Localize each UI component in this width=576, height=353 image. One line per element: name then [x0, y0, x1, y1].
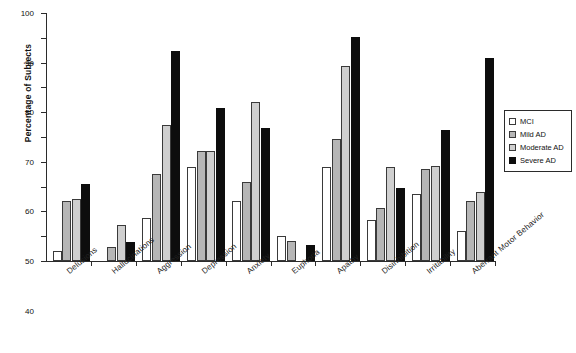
- bar: [242, 182, 251, 261]
- x-tick: [136, 261, 137, 266]
- y-axis-label: Percentage of Subjects: [23, 13, 33, 173]
- x-tick: [495, 261, 496, 266]
- bar: [206, 151, 215, 261]
- bar: [62, 201, 71, 261]
- bar: [216, 108, 225, 261]
- legend-item-severe-ad: Severe AD: [509, 154, 567, 167]
- y-tick: 10: [41, 236, 46, 237]
- bar-group: [322, 13, 360, 261]
- y-tick: 20: [41, 211, 46, 212]
- bar: [476, 192, 485, 261]
- bar: [351, 37, 360, 261]
- x-tick: [226, 261, 227, 266]
- y-tick-label: 60: [25, 207, 34, 216]
- y-tick-label: 100: [21, 9, 34, 18]
- y-tick-label: 50: [25, 257, 34, 266]
- bar-group: [97, 13, 135, 261]
- bar: [171, 51, 180, 261]
- x-tick: [405, 261, 406, 266]
- x-tick: [450, 261, 451, 266]
- legend-item-moderate-ad: Moderate AD: [509, 141, 567, 154]
- y-tick-label: 40: [25, 306, 34, 315]
- legend-swatch-icon-mild-ad: [509, 131, 516, 138]
- y-tick: 40: [41, 162, 46, 163]
- bar: [197, 151, 206, 261]
- legend-label-severe-ad: Severe AD: [520, 156, 556, 165]
- bar: [53, 251, 62, 261]
- legend-item-mci: MCI: [509, 115, 567, 128]
- legend: MCI Mild AD Moderate AD Severe AD: [504, 110, 572, 172]
- bar-group: [367, 13, 405, 261]
- bar: [322, 167, 331, 261]
- bar: [107, 247, 116, 261]
- bar: [421, 169, 430, 261]
- bar: [277, 236, 286, 261]
- bar: [485, 58, 494, 261]
- bar-group: [53, 13, 91, 261]
- bar: [261, 128, 270, 261]
- y-tick: 30: [41, 187, 46, 188]
- y-tick: 0: [41, 261, 46, 262]
- bar-group: [187, 13, 225, 261]
- legend-label-mci: MCI: [520, 117, 534, 126]
- bar: [341, 66, 350, 261]
- y-tick: 70: [41, 87, 46, 88]
- bar-group: [142, 13, 180, 261]
- y-tick-label: 70: [25, 157, 34, 166]
- plot-area: 0102030405060708090100: [46, 13, 495, 261]
- bar: [162, 125, 171, 261]
- bar-group: [232, 13, 270, 261]
- bar: [367, 220, 376, 261]
- y-tick: 80: [41, 63, 46, 64]
- y-tick: 100: [41, 13, 46, 14]
- y-tick-label: 80: [25, 108, 34, 117]
- legend-item-mild-ad: Mild AD: [509, 128, 567, 141]
- x-tick: [271, 261, 272, 266]
- legend-label-moderate-ad: Moderate AD: [520, 143, 564, 152]
- bar-chart: Percentage of Subjects 01020304050607080…: [0, 0, 576, 353]
- bar: [72, 199, 81, 261]
- y-axis-line: [46, 13, 47, 261]
- legend-label-mild-ad: Mild AD: [520, 130, 546, 139]
- legend-swatch-icon-mci: [509, 118, 516, 125]
- bar: [287, 241, 296, 261]
- bar: [386, 167, 395, 261]
- bar-group: [412, 13, 450, 261]
- y-tick: 50: [41, 137, 46, 138]
- legend-swatch-icon-severe-ad: [509, 157, 516, 164]
- bar: [441, 130, 450, 261]
- bar: [466, 201, 475, 261]
- bar: [251, 102, 260, 261]
- y-tick: 90: [41, 38, 46, 39]
- x-tick: [360, 261, 361, 266]
- y-tick-label: 90: [25, 58, 34, 67]
- bar-group: [457, 13, 495, 261]
- y-tick: 60: [41, 112, 46, 113]
- x-tick: [181, 261, 182, 266]
- legend-swatch-icon-moderate-ad: [509, 144, 516, 151]
- bar: [457, 231, 466, 261]
- bar: [332, 139, 341, 261]
- x-tick: [91, 261, 92, 266]
- bar-group: [277, 13, 315, 261]
- bar: [431, 166, 440, 261]
- bar: [376, 208, 385, 261]
- x-tick: [315, 261, 316, 266]
- bar: [152, 174, 161, 261]
